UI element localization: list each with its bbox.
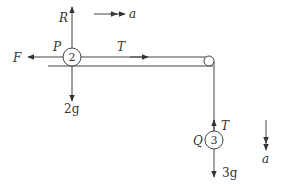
acceleration-label-horizontal: a	[129, 7, 136, 21]
particle-p-mass: 2	[69, 51, 76, 64]
particle-q-label: Q	[193, 134, 203, 148]
weight-label-q: 3g	[222, 166, 238, 180]
tension-label-vertical: T	[221, 119, 230, 133]
pulley-diagram: 2 3 R a P F T 2g T Q 3g a	[0, 0, 284, 187]
reaction-label: R	[58, 11, 68, 25]
particle-p-label: P	[52, 40, 62, 54]
particle-q-mass: 3	[211, 134, 218, 147]
tension-label-horizontal: T	[117, 40, 126, 54]
acceleration-label-vertical: a	[262, 152, 269, 166]
weight-label-p: 2g	[64, 102, 80, 116]
friction-label: F	[12, 51, 22, 65]
pulley	[204, 56, 214, 66]
